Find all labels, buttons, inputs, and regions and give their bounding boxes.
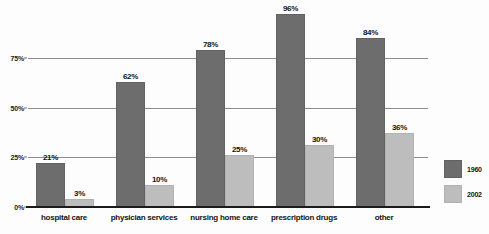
y-tick-mark xyxy=(24,157,27,158)
bar-value-label: 21% xyxy=(43,153,58,162)
bar-value-label: 36% xyxy=(392,123,407,132)
bar-value-label: 3% xyxy=(74,189,85,198)
x-axis-category-label: nursing home care xyxy=(190,213,257,222)
bar-group: 96%30% xyxy=(268,8,348,207)
bar-chart: 0%25%50%75%21%3%62%10%78%25%96%30%84%36%… xyxy=(0,0,489,234)
bar-value-label: 62% xyxy=(123,72,138,81)
bar-2002[interactable]: 10% xyxy=(145,185,174,207)
x-axis-category-label: hospital care xyxy=(41,213,87,222)
bar-1960[interactable]: 62% xyxy=(116,82,145,207)
x-axis-category-label: prescription drugs xyxy=(271,213,337,222)
legend-item[interactable]: 1960 xyxy=(444,160,482,178)
bar-value-label: 84% xyxy=(363,28,378,37)
legend-swatch-2002 xyxy=(444,185,462,203)
bar-1960[interactable]: 78% xyxy=(196,50,225,207)
x-axis-category-label: other xyxy=(375,213,394,222)
bar-group: 21%3% xyxy=(28,8,108,207)
y-axis-tick-label: 50% xyxy=(11,104,24,111)
bar-2002[interactable]: 36% xyxy=(385,133,414,207)
bar-value-label: 96% xyxy=(283,4,298,13)
y-axis-tick-label: 25% xyxy=(11,154,24,161)
y-tick-mark xyxy=(24,57,27,58)
bar-2002[interactable]: 30% xyxy=(305,145,334,207)
plot-area: 0%25%50%75%21%3%62%10%78%25%96%30%84%36% xyxy=(28,8,428,207)
bar-value-label: 25% xyxy=(232,145,247,154)
y-axis-tick-label: 75% xyxy=(11,54,24,61)
bar-group: 84%36% xyxy=(348,8,428,207)
y-tick-mark xyxy=(24,107,27,108)
bar-1960[interactable]: 21% xyxy=(36,163,65,207)
legend-swatch-1960 xyxy=(444,160,462,178)
chart-legend: 19602002 xyxy=(444,160,482,210)
legend-label: 1960 xyxy=(467,166,482,173)
x-axis-category-label: physician services xyxy=(111,213,178,222)
bar-1960[interactable]: 96% xyxy=(276,14,305,207)
bar-1960[interactable]: 84% xyxy=(356,38,385,207)
legend-label: 2002 xyxy=(467,191,482,198)
bar-value-label: 10% xyxy=(152,175,167,184)
x-axis-baseline xyxy=(26,206,430,208)
y-axis-tick-label: 0% xyxy=(14,204,24,211)
bar-group: 62%10% xyxy=(108,8,188,207)
bar-value-label: 78% xyxy=(203,40,218,49)
legend-item[interactable]: 2002 xyxy=(444,185,482,203)
bar-value-label: 30% xyxy=(312,135,327,144)
bar-group: 78%25% xyxy=(188,8,268,207)
bar-2002[interactable]: 25% xyxy=(225,155,254,207)
